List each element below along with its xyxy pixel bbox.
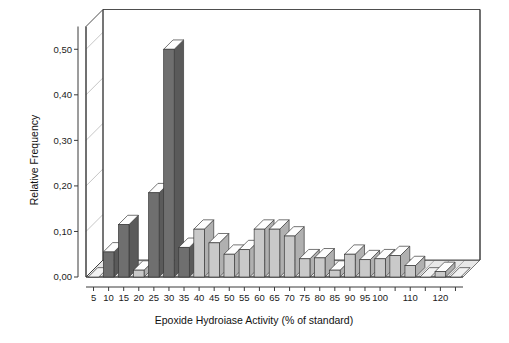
- y-tick-label: 0,40: [54, 89, 73, 100]
- x-tick-label: 35: [179, 292, 190, 303]
- relative-frequency-bar-chart: 0,000,100,200,300,400,50 510152025303540…: [0, 0, 509, 343]
- x-tick-label: 5: [91, 292, 96, 303]
- y-axis-title: Relative Frequency: [28, 114, 40, 205]
- x-tick-label: 20: [133, 292, 144, 303]
- x-tick-label: 80: [314, 292, 325, 303]
- x-tick-label: 85: [330, 292, 341, 303]
- x-tick-label: 110: [403, 292, 418, 303]
- x-tick-label: 25: [149, 292, 160, 303]
- y-tick-label: 0,50: [54, 44, 73, 55]
- x-tick-label: 10: [103, 292, 114, 303]
- x-tick-label: 50: [224, 292, 235, 303]
- x-tick-label: 65: [269, 292, 280, 303]
- x-tick-label: 75: [299, 292, 310, 303]
- x-tick-label: 40: [194, 292, 205, 303]
- x-tick-label: 55: [239, 292, 250, 303]
- y-tick-label: 0,00: [54, 271, 73, 282]
- y-tick-label: 0,20: [54, 180, 73, 191]
- x-tick-label: 15: [118, 292, 129, 303]
- x-tick-label: 45: [209, 292, 220, 303]
- x-tick-label: 70: [284, 292, 295, 303]
- chart-container: 0,000,100,200,300,400,50 510152025303540…: [0, 0, 509, 343]
- x-tick-label: 95: [360, 292, 371, 303]
- bar: [118, 215, 138, 277]
- x-tick-label: 120: [432, 292, 448, 303]
- y-tick-label: 0,30: [54, 135, 73, 146]
- x-axis-title: Epoxide Hydroiase Activity (% of standar…: [155, 314, 353, 326]
- y-tick-label: 0,10: [54, 226, 73, 237]
- x-tick-label: 100: [372, 292, 388, 303]
- bar: [164, 40, 184, 277]
- x-tick-label: 30: [164, 292, 175, 303]
- x-tick-label: 90: [345, 292, 356, 303]
- x-tick-label: 60: [254, 292, 265, 303]
